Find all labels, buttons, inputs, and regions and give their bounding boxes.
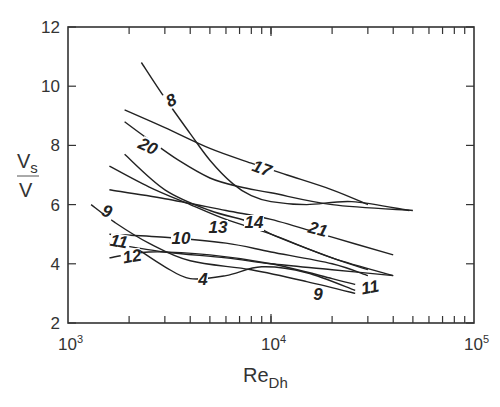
svg-text:104: 104 bbox=[261, 333, 286, 354]
svg-text:105: 105 bbox=[464, 333, 489, 354]
svg-text:V: V bbox=[19, 179, 33, 201]
svg-text:8: 8 bbox=[51, 136, 60, 155]
y-tick-labels: 24681012 bbox=[41, 18, 60, 333]
curve-label-10: 10 bbox=[172, 229, 191, 248]
chart: 24681012 103104105 820179131421101112491… bbox=[0, 0, 500, 407]
svg-text:Vs: Vs bbox=[17, 150, 38, 176]
svg-text:ReDh: ReDh bbox=[243, 364, 288, 391]
y-axis-title: Vs V bbox=[17, 150, 39, 201]
svg-text:103: 103 bbox=[58, 333, 83, 354]
x-tick-labels: 103104105 bbox=[58, 333, 489, 354]
curve-label-8: 8 bbox=[163, 90, 180, 111]
svg-text:4: 4 bbox=[51, 255, 60, 274]
svg-text:2: 2 bbox=[51, 314, 60, 333]
curve-label-13: 13 bbox=[209, 218, 228, 237]
x-axis-title: ReDh bbox=[243, 364, 288, 391]
svg-text:10: 10 bbox=[41, 77, 60, 96]
curve-17 bbox=[125, 110, 368, 205]
svg-text:12: 12 bbox=[41, 18, 60, 37]
curve-label-12: 12 bbox=[121, 245, 143, 267]
curve-label-9: 9 bbox=[313, 285, 323, 304]
curve-8 bbox=[141, 63, 409, 211]
curve-label-11: 11 bbox=[360, 277, 381, 299]
curve-label-4: 4 bbox=[197, 270, 208, 289]
svg-text:6: 6 bbox=[51, 196, 60, 215]
curve-label-14: 14 bbox=[245, 213, 264, 232]
curve-label-17: 17 bbox=[250, 156, 276, 181]
